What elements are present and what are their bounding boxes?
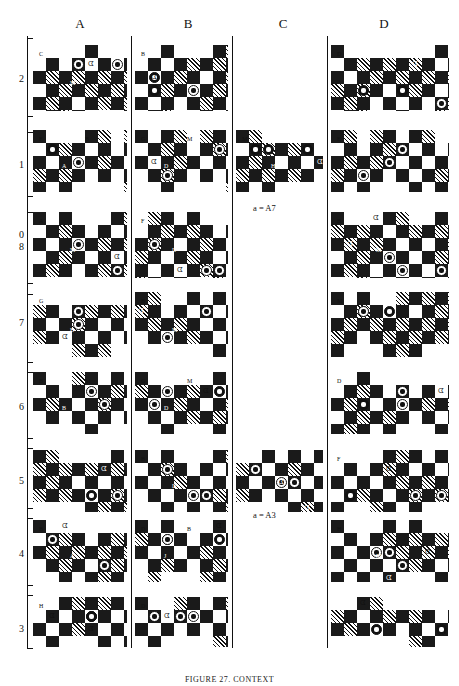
white-stone[interactable] <box>112 265 123 276</box>
white-stone[interactable] <box>201 306 212 317</box>
white-stone[interactable] <box>250 464 261 475</box>
board-cell-D0[interactable]: ᗧᗧBM <box>331 212 449 278</box>
white-stone[interactable] <box>73 319 84 330</box>
black-stone[interactable] <box>436 624 447 635</box>
square <box>409 110 422 111</box>
white-stone[interactable] <box>73 59 84 70</box>
white-stone[interactable] <box>112 59 123 70</box>
white-stone[interactable] <box>188 85 199 96</box>
white-stone[interactable] <box>201 265 212 276</box>
square <box>59 264 72 277</box>
black-stone[interactable] <box>86 490 97 501</box>
black-stone[interactable] <box>250 144 261 155</box>
board-cell-B1[interactable]: ᗧGDM <box>135 130 228 192</box>
white-stone[interactable] <box>289 477 300 488</box>
white-stone[interactable] <box>162 332 173 343</box>
board-cell-C1[interactable]: ᗧMH <box>236 130 323 192</box>
board-cell-D3[interactable]: ᗧ <box>331 597 449 647</box>
square <box>396 533 409 546</box>
black-stone[interactable] <box>149 85 160 96</box>
black-stone[interactable] <box>345 490 356 501</box>
board-cell-A5[interactable]: ᗧ <box>33 450 127 512</box>
board-cell-B5[interactable]: ᗧᗧBD <box>135 450 228 512</box>
white-stone[interactable] <box>175 611 186 622</box>
square <box>135 318 148 331</box>
white-stone[interactable] <box>384 252 395 263</box>
square <box>124 559 127 572</box>
board-cell-B2[interactable]: ᗧB <box>135 45 228 111</box>
white-stone[interactable] <box>397 265 408 276</box>
board-cell-D6[interactable]: ᗧDA <box>331 372 449 434</box>
black-stone[interactable] <box>358 399 369 410</box>
square <box>409 130 422 143</box>
white-stone[interactable] <box>436 98 447 109</box>
board-cell-B6[interactable]: ᗧᗧGDM <box>135 372 228 434</box>
white-stone[interactable] <box>384 157 395 168</box>
white-stone[interactable] <box>112 490 123 501</box>
square <box>85 559 98 572</box>
white-stone[interactable] <box>397 386 408 397</box>
board-cell-C5[interactable]: ᗧᗧ <box>236 450 323 512</box>
white-stone[interactable] <box>188 490 199 501</box>
crown-mark-icon: ᗧ <box>373 215 379 222</box>
board-cell-A6[interactable]: ᗧBBM <box>33 372 127 434</box>
board-cell-A2[interactable]: ᗧᗧCM <box>33 45 127 111</box>
board-cell-B3[interactable]: ᗧD <box>135 597 228 647</box>
square <box>161 623 174 636</box>
white-stone[interactable] <box>436 490 447 501</box>
white-stone[interactable] <box>162 534 173 545</box>
white-stone[interactable] <box>201 490 212 501</box>
white-stone[interactable] <box>73 306 84 317</box>
white-stone[interactable] <box>410 490 421 501</box>
white-stone[interactable] <box>149 239 160 250</box>
black-stone[interactable] <box>302 144 313 155</box>
white-stone[interactable] <box>214 144 225 155</box>
white-stone[interactable] <box>384 547 395 558</box>
square <box>435 610 448 623</box>
white-stone[interactable] <box>358 306 369 317</box>
black-stone[interactable] <box>384 306 395 317</box>
board-cell-A0[interactable]: ᗧAM <box>33 212 127 278</box>
black-stone[interactable] <box>263 144 274 155</box>
board-cell-D5[interactable]: ᗧF <box>331 450 449 512</box>
black-stone[interactable] <box>86 611 97 622</box>
white-stone[interactable] <box>162 170 173 181</box>
board-cell-D2[interactable]: ᗧᗧD <box>331 45 449 111</box>
board-cell-A7[interactable]: ᗧGB <box>33 292 127 357</box>
white-stone[interactable] <box>86 386 97 397</box>
black-stone[interactable] <box>47 144 58 155</box>
black-stone[interactable] <box>214 534 225 545</box>
white-stone[interactable] <box>397 560 408 571</box>
white-stone[interactable] <box>73 157 84 168</box>
square <box>422 277 435 278</box>
white-stone[interactable] <box>162 386 173 397</box>
white-stone[interactable] <box>397 399 408 410</box>
white-stone[interactable] <box>397 144 408 155</box>
black-stone[interactable] <box>397 85 408 96</box>
square <box>370 610 383 623</box>
board-cell-B7[interactable]: ᗧᗧBM <box>135 292 228 357</box>
white-stone[interactable] <box>99 560 110 571</box>
black-stone[interactable] <box>371 624 382 635</box>
white-stone[interactable] <box>436 265 447 276</box>
board-cell-B4[interactable]: ᗧDJB <box>135 520 228 582</box>
white-stone[interactable] <box>99 399 110 410</box>
black-stone[interactable] <box>214 386 225 397</box>
board-cell-B0[interactable]: ᗧFD <box>135 212 228 278</box>
white-stone[interactable] <box>358 170 369 181</box>
board-cell-D1[interactable]: ᗧE <box>331 130 449 192</box>
board-cell-A3[interactable]: ᗧᗧH <box>33 597 127 647</box>
square <box>448 110 449 111</box>
board-cell-A1[interactable]: ᗧFAB <box>33 130 127 192</box>
white-stone[interactable] <box>149 399 160 410</box>
white-stone[interactable] <box>188 611 199 622</box>
white-stone[interactable] <box>162 464 173 475</box>
board-cell-D4[interactable]: ᗧᗧHM <box>331 520 449 582</box>
row-label-0: 0 <box>10 229 24 240</box>
white-stone[interactable] <box>149 611 160 622</box>
black-stone[interactable] <box>358 85 369 96</box>
board-cell-D7[interactable]: ᗧM <box>331 292 449 357</box>
board-cell-A4[interactable]: ᗧBA <box>33 520 127 582</box>
white-stone[interactable] <box>214 265 225 276</box>
white-stone[interactable] <box>47 534 58 545</box>
